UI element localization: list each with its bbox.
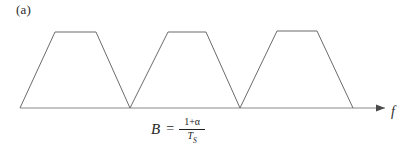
formula-equals-sign: = — [166, 122, 174, 136]
axis-arrowhead — [376, 105, 385, 112]
frequency-axis — [20, 105, 385, 112]
formula-variable-b: B — [151, 122, 160, 137]
formula-denominator-subscript: S — [193, 136, 197, 145]
axis-label-frequency: f — [391, 104, 395, 120]
formula-denominator: TS — [185, 130, 198, 144]
spectrum-traces — [20, 31, 353, 108]
trapezoid-pulse-3 — [240, 31, 353, 108]
formula-numerator: 1+α — [182, 117, 202, 129]
bandwidth-formula: B = 1+α TS — [151, 116, 205, 142]
trapezoid-pulse-1 — [20, 32, 130, 108]
formula-fraction: 1+α TS — [179, 117, 205, 143]
figure-panel-a: (a) f B = 1+α TS — [0, 0, 411, 151]
trapezoid-pulse-2 — [130, 32, 240, 108]
spectrum-plot — [0, 0, 411, 151]
